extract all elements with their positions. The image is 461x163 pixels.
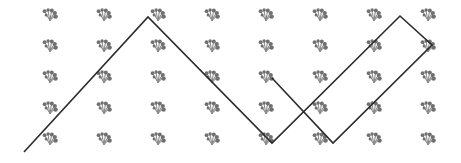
floral-sprig-icon [151,101,166,113]
sprig-dot [46,132,49,135]
sprig-dot [431,42,435,46]
floral-sprig-icon [421,70,436,82]
floral-sprig-icon [43,39,58,51]
sprig-dot [261,107,264,110]
sprig-dot [205,102,209,106]
floral-sprig-icon [421,39,436,51]
sprig-dot [315,14,318,17]
sprig-dot [431,45,435,49]
sprig-dot [153,14,156,17]
floral-sprig-icon [313,101,328,113]
floral-sprig-icon [313,132,328,144]
sprig-dot [431,138,435,142]
sprig-dot [315,138,318,141]
sprig-dot [45,107,48,110]
sprig-dot [53,45,57,49]
sprig-dot [99,138,102,141]
sprig-dot [377,73,381,77]
sprig-dot [377,138,381,142]
floral-sprig-icon [205,39,220,51]
floral-sprig-icon [421,132,436,144]
sprig-dot [207,107,210,110]
sprig-dot [161,76,165,80]
sprig-dot [207,14,210,17]
sprig-dot [53,76,57,80]
sprig-dot [323,138,327,142]
sprig-dot [369,14,372,17]
sprig-dot [161,104,165,108]
sprig-dot [315,45,318,48]
sprig-dot [323,45,327,49]
sprig-dot [424,101,427,104]
sprig-dot [153,45,156,48]
sprig-dot [215,135,219,139]
sprig-dot [161,107,165,111]
sprig-dot [43,40,47,44]
sprig-dot [370,39,373,42]
sprig-dot [421,71,425,75]
sprig-dot [207,76,210,79]
sprig-dot [431,14,435,18]
sprig-dot [262,132,265,135]
sprig-dot [107,42,111,46]
sprig-dot [269,138,273,142]
sprig-dot [45,138,48,141]
sprig-dot [107,14,111,18]
sprig-dot [269,42,273,46]
sprig-dot [215,76,219,80]
sprig-dot [161,45,165,49]
floral-sprig-icon [367,39,382,51]
sprig-dot [97,102,101,106]
sprig-dot [207,138,210,141]
sprig-dot [421,102,425,106]
sprig-dot [97,9,101,13]
sprig-dot [43,102,47,106]
floral-sprig-icon [43,101,58,113]
floral-sprig-icon [367,8,382,20]
sprig-dot [154,101,157,104]
sprig-dot [369,76,372,79]
sprig-dot [261,138,264,141]
sprig-dot [259,133,263,137]
sprig-dot [151,133,155,137]
sprig-dot [100,70,103,73]
sprig-dot [370,70,373,73]
sprig-dot [161,138,165,142]
floral-sprig-icon [97,8,112,20]
sprig-dot [431,76,435,80]
sprig-dot [262,101,265,104]
sprig-dot [43,9,47,13]
sprig-dot [107,135,111,139]
floral-sprig-icon [43,132,58,144]
sprig-dot [215,107,219,111]
sprig-dot [205,71,209,75]
sprig-dot [421,9,425,13]
sprig-dot [323,135,327,139]
sprig-dot [313,40,317,44]
sprig-dot [107,138,111,142]
sprig-dot [313,9,317,13]
sprig-dot [323,107,327,111]
floral-sprig-icon [205,8,220,20]
sprig-dot [369,45,372,48]
sprig-dot [316,132,319,135]
floral-sprig-icon [421,8,436,20]
sprig-dot [369,107,372,110]
sprig-dot [269,14,273,18]
sprig-dot [323,73,327,77]
sprig-dot [315,76,318,79]
sprig-dot [208,70,211,73]
sprig-dot [154,70,157,73]
floral-sprig-icon [259,132,274,144]
sprig-dot [215,138,219,142]
sprig-dot [261,76,264,79]
sprig-dot [107,73,111,77]
sprig-dot [367,71,371,75]
floral-sprig-icon [97,101,112,113]
sprig-dot [377,76,381,80]
sprig-dot [316,70,319,73]
sprig-dot [423,14,426,17]
sprig-dot [46,39,49,42]
sprig-dot [97,133,101,137]
sprig-dot [323,76,327,80]
